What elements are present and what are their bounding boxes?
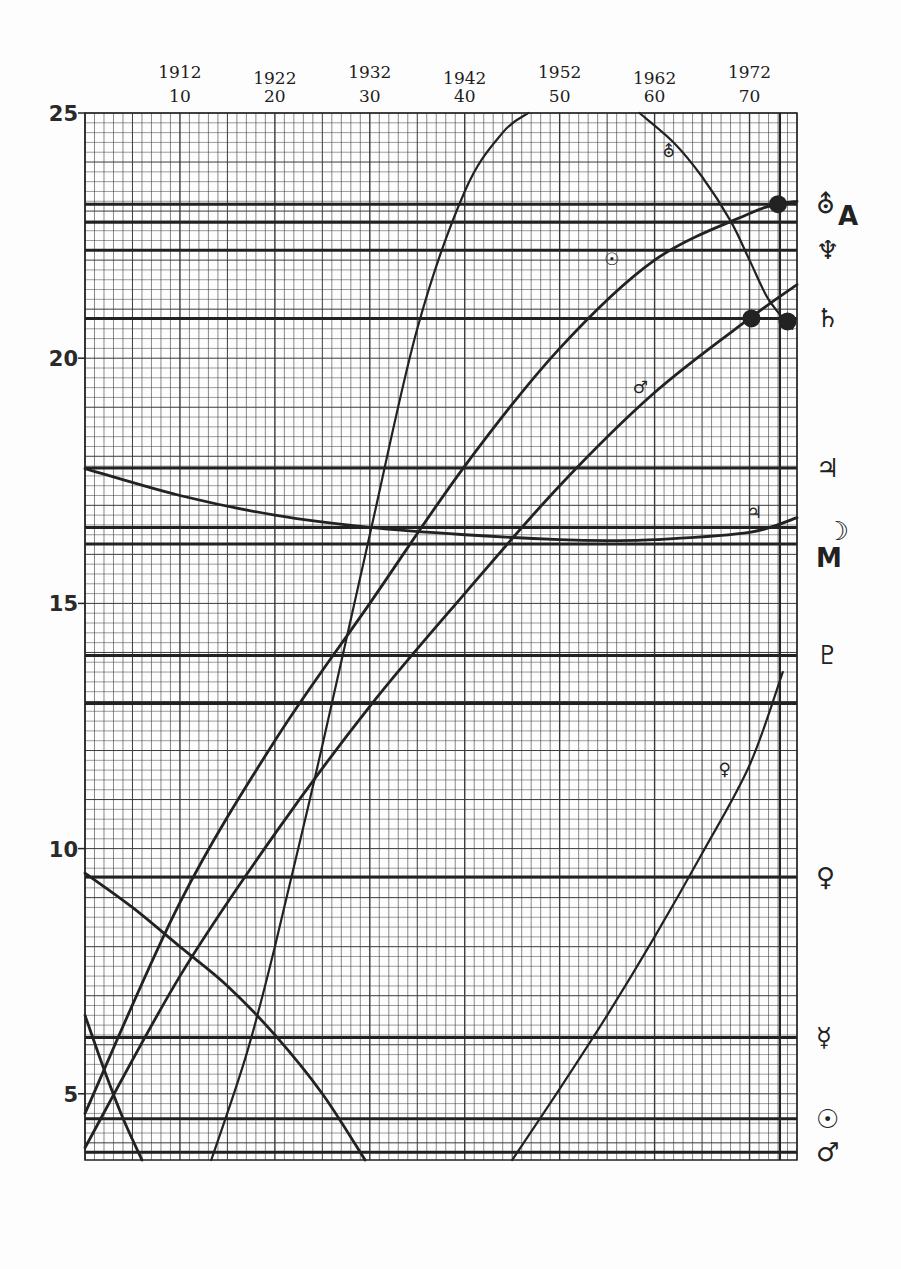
legend-symbol-mars: ♂ <box>816 1137 839 1167</box>
saturn-uranus-dot <box>779 312 797 330</box>
y-tick-label: 10 <box>49 838 78 862</box>
legend-symbol-uranus: ⛢ <box>816 189 835 219</box>
x-tick-year: 1972 <box>728 62 771 82</box>
curve-label-venus-curve: ♀ <box>719 759 731 779</box>
right-legend: ⛢A♆♄♃☽M♇♀☿☉♂ <box>816 189 858 1167</box>
x-tick-year: 1952 <box>538 62 581 82</box>
x-tick-label: 50 <box>549 86 571 106</box>
legend-symbol-m: M <box>816 543 842 573</box>
curve-label-uranus-curve: ⛢ <box>663 141 675 161</box>
x-axis-ticks: 1912101922201932301942401952501962601972… <box>158 62 771 106</box>
curve-label-mars-curve: ♂ <box>633 377 648 397</box>
y-tick-label: 15 <box>49 592 78 616</box>
legend-symbol-jupiter: ♃ <box>816 453 839 483</box>
y-axis-ticks: 252015105 <box>49 102 85 1107</box>
legend-symbol-mercury: ☿ <box>816 1022 832 1052</box>
saturn-mars-dot <box>742 309 760 327</box>
legend-symbol-venus: ♀ <box>816 862 835 892</box>
curve-label-sun-curve: ☉ <box>604 249 619 269</box>
legend-symbol-moon: ☽ <box>826 516 849 546</box>
x-tick-label: 40 <box>454 86 476 106</box>
y-tick-label: 25 <box>49 102 78 126</box>
y-tick-label: 20 <box>49 347 78 371</box>
reference-lines <box>85 204 797 1152</box>
legend-symbol-neptune: ♆ <box>816 235 839 265</box>
chart: ☉♂♃⛢♀ 1912101922201932301942401952501962… <box>0 0 901 1269</box>
series-sun-curve <box>85 201 797 1113</box>
x-tick-year: 1942 <box>443 68 486 88</box>
legend-symbol-sun: ☉ <box>816 1104 839 1134</box>
x-tick-label: 10 <box>169 86 191 106</box>
uranus-conjunction-dot <box>769 195 787 213</box>
legend-symbol-saturn: ♄ <box>816 303 839 333</box>
legend-symbol-a: A <box>838 201 858 231</box>
x-tick-label: 30 <box>359 86 381 106</box>
y-tick-label: 5 <box>63 1083 78 1107</box>
x-tick-year: 1922 <box>253 68 296 88</box>
curve-label-jupiter-curve: ♃ <box>747 502 762 522</box>
series-jupiter-curve <box>85 469 797 541</box>
legend-symbol-pluto: ♇ <box>816 640 839 670</box>
series-venus-curve <box>512 672 783 1160</box>
x-tick-label: 60 <box>644 86 666 106</box>
x-tick-label: 70 <box>739 86 761 106</box>
series-mars-curve <box>85 285 797 1148</box>
x-tick-year: 1962 <box>633 68 676 88</box>
x-tick-label: 20 <box>264 86 286 106</box>
x-tick-year: 1912 <box>158 62 201 82</box>
x-tick-year: 1932 <box>348 62 391 82</box>
grid <box>85 113 797 1160</box>
